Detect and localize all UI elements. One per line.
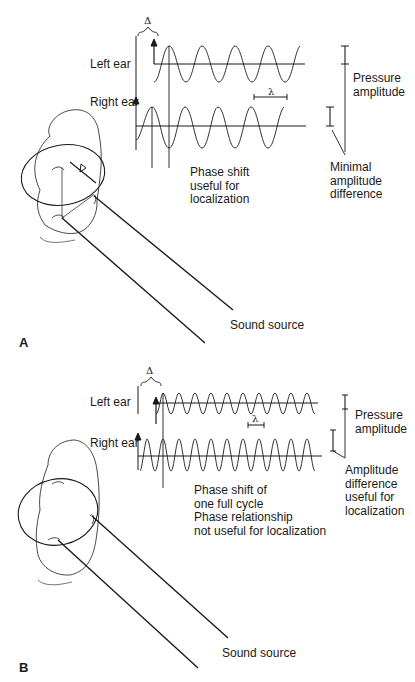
pressure-amplitude-label-b: Pressure amplitude: [355, 409, 407, 436]
pressure-amplitude-label-a: Pressure amplitude: [353, 72, 405, 99]
head-drawing-b: [12, 440, 104, 585]
left-ear-label-a: Left ear: [90, 58, 131, 72]
lambda-label-b: λ: [252, 412, 258, 426]
right-ear-wave-b: [140, 439, 315, 471]
sound-source-label-b: Sound source: [222, 647, 296, 661]
delta-label-a: Δ: [144, 14, 151, 28]
phase-note-a: Phase shift useful for localization: [190, 166, 249, 207]
sound-ray-right-a: [62, 218, 205, 343]
head-drawing-a: [16, 110, 109, 243]
sound-ray-right-b: [58, 540, 198, 668]
amplitude-note-a: Minimal amplitude difference: [330, 161, 382, 202]
phase-note-b: Phase shift of one full cycle Phase rela…: [194, 484, 326, 538]
panel-letter-b: B: [19, 660, 28, 675]
right-ear-label-b: Right ear: [90, 437, 139, 451]
right-ear-wave-a: [136, 107, 284, 148]
sound-ray-left-a: [94, 196, 233, 310]
amplitude-note-b: Amplitude difference useful for localiza…: [345, 464, 404, 518]
lambda-label-a: λ: [268, 85, 274, 99]
sound-source-label-a: Sound source: [230, 319, 304, 333]
right-ear-label-a: Right ear: [90, 96, 139, 110]
diagram-canvas: [0, 0, 415, 682]
panel-letter-a: A: [19, 335, 28, 350]
delta-label-b: Δ: [146, 364, 153, 378]
left-ear-label-b: Left ear: [90, 396, 131, 410]
